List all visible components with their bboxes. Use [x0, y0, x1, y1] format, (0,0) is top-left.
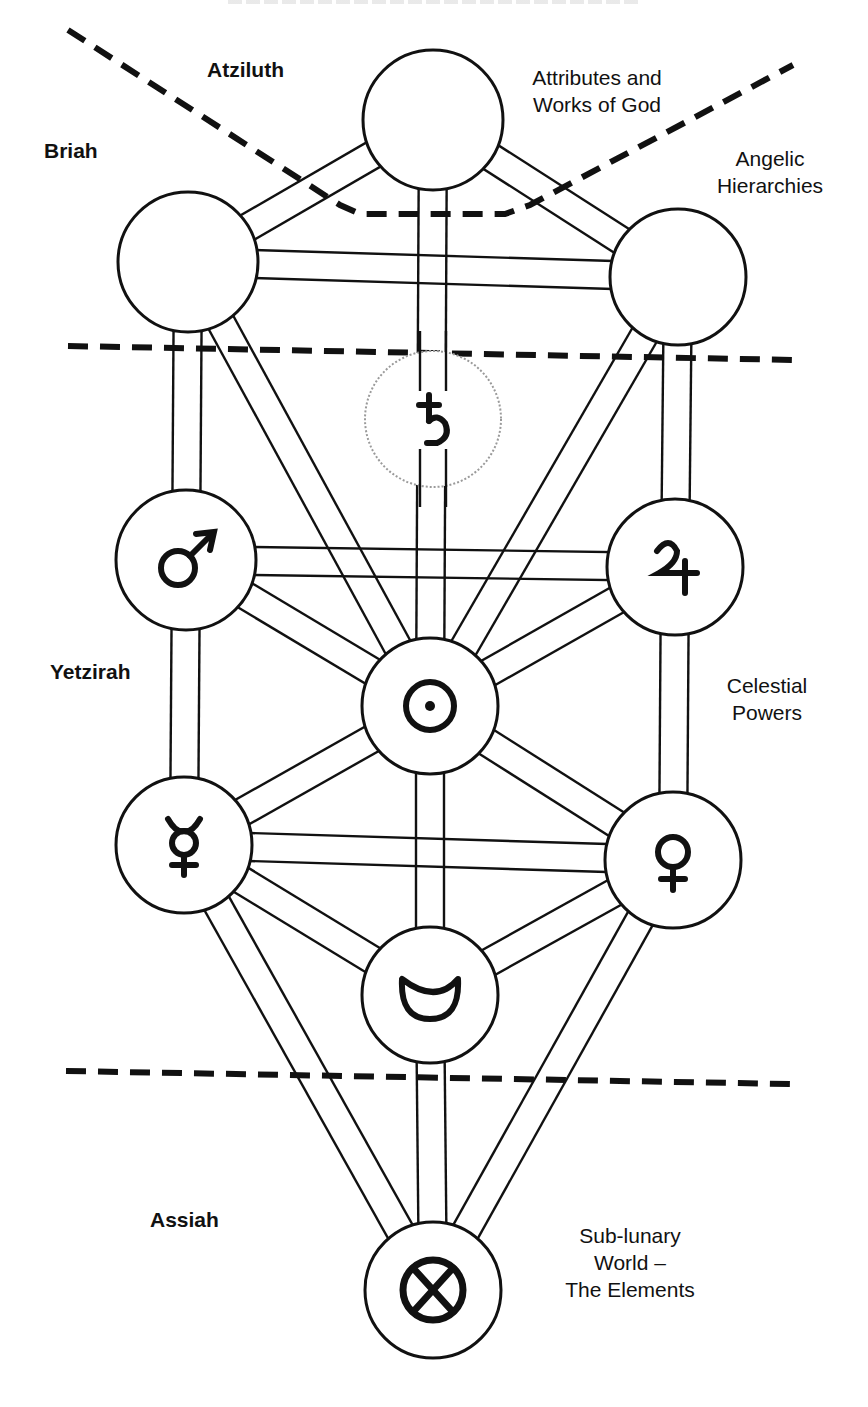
sephirah-chesed	[607, 499, 743, 635]
description-line: Angelic	[700, 145, 840, 172]
sephirah-geburah	[116, 490, 256, 630]
description-line: Works of God	[512, 91, 682, 118]
sephirah-kether	[363, 50, 503, 190]
path-geburah-chesed	[186, 546, 675, 581]
sephirah-tiphareth	[362, 638, 498, 774]
description-line: Sub-lunary	[540, 1222, 720, 1249]
sephirah-binah	[118, 192, 258, 332]
tree-of-life-diagram: Atziluth Briah Yetzirah Assiah Attribute…	[0, 0, 868, 1407]
world-label-briah: Briah	[44, 137, 98, 164]
description-line: Powers	[712, 699, 822, 726]
description-line: World –	[540, 1249, 720, 1276]
world-label-yetzirah: Yetzirah	[50, 658, 131, 685]
sephiroth-layer	[116, 50, 746, 1358]
description-angelic-hierarchies: Angelic Hierarchies	[700, 145, 840, 199]
world-label-atziluth: Atziluth	[207, 56, 284, 83]
description-line: Attributes and	[512, 64, 682, 91]
world-label-assiah: Assiah	[150, 1206, 219, 1233]
description-line: Celestial	[712, 672, 822, 699]
sephirah-malkuth	[365, 1222, 501, 1358]
sephirah-yesod	[362, 927, 498, 1063]
description-line: The Elements	[540, 1276, 720, 1303]
path-binah-chokmah	[188, 248, 679, 291]
sephirah-netzach	[605, 792, 741, 928]
description-line: Hierarchies	[700, 172, 840, 199]
description-attributes-works-of-god: Attributes and Works of God	[512, 64, 682, 118]
path-hod-netzach	[184, 831, 674, 874]
description-sub-lunary-world: Sub-lunary World – The Elements	[540, 1222, 720, 1303]
sephirah-daath	[365, 331, 501, 507]
sephirah-hod	[116, 777, 252, 913]
world-divider-2	[66, 1071, 790, 1084]
sephirah-chokmah	[610, 209, 746, 345]
description-celestial-powers: Celestial Powers	[712, 672, 822, 726]
